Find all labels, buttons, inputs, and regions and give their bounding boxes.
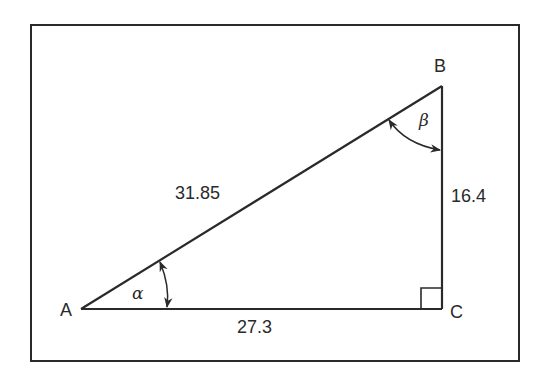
right-triangle-diagram: A B C 31.85 16.4 27.3 α β [0,0,546,382]
side-label-ac: 27.3 [237,317,272,337]
vertex-label-b: B [434,56,446,76]
angle-label-alpha: α [132,283,144,303]
side-ab-hypotenuse [81,86,442,309]
angle-label-beta: β [418,110,429,130]
vertex-label-c: C [450,302,463,322]
vertex-label-a: A [60,300,72,320]
right-angle-marker [421,288,442,309]
beta-angle-arc-icon [389,120,440,150]
alpha-angle-arc-icon [160,262,168,307]
side-label-ab: 31.85 [175,183,220,203]
side-label-bc: 16.4 [451,186,486,206]
